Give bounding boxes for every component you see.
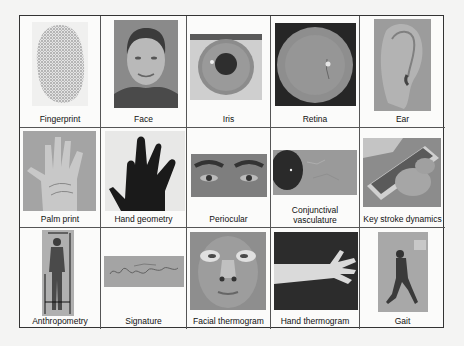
hand-geometry-image: [105, 131, 185, 211]
gait-image: [378, 232, 428, 312]
biometrics-grid: Fingerprint Face: [19, 15, 444, 328]
label-retina: Retina: [271, 114, 359, 124]
cell-periocular: Periocular: [187, 128, 271, 228]
conjunctival-vasculature-image: [273, 150, 357, 195]
palm-print-image: [23, 131, 96, 211]
cell-signature: Signature: [101, 228, 187, 329]
label-anthropometry: Anthropometry: [20, 316, 100, 326]
label-hand-geometry: Hand geometry: [101, 214, 186, 224]
signature-image: [104, 256, 184, 287]
periocular-image: [191, 154, 267, 197]
cell-gait: Gait: [360, 228, 445, 329]
cell-ear: Ear: [360, 16, 445, 128]
keystroke-dynamics-image: [363, 138, 441, 207]
cell-retina: Retina: [271, 16, 360, 128]
label-facial-thermogram: Facial thermogram: [187, 316, 270, 326]
label-face: Face: [101, 114, 186, 124]
iris-image: [190, 34, 262, 100]
face-image: [114, 20, 178, 108]
cell-keystroke-dynamics: Key stroke dynamics: [360, 128, 445, 228]
hand-thermogram-image: [274, 232, 358, 310]
cell-fingerprint: Fingerprint: [20, 16, 101, 128]
cell-hand-geometry: Hand geometry: [101, 128, 187, 228]
facial-thermogram-image: [190, 232, 266, 310]
cell-iris: Iris: [187, 16, 271, 128]
ear-image: [374, 19, 431, 111]
cell-facial-thermogram: Facial thermogram: [187, 228, 271, 329]
cell-face: Face: [101, 16, 187, 128]
label-fingerprint: Fingerprint: [20, 114, 100, 124]
cell-anthropometry: Anthropometry: [20, 228, 101, 329]
label-gait: Gait: [360, 316, 445, 326]
label-keystroke-dynamics: Key stroke dynamics: [360, 214, 445, 224]
label-signature: Signature: [101, 316, 186, 326]
retina-image: [275, 23, 356, 106]
cell-palm-print: Palm print: [20, 128, 101, 228]
label-conjunctival-vasculature: Conjunctival vasculature: [271, 205, 359, 225]
anthropometry-image: [42, 230, 74, 316]
label-hand-thermogram: Hand thermogram: [271, 316, 359, 326]
label-ear: Ear: [360, 114, 445, 124]
label-iris: Iris: [187, 114, 270, 124]
fingerprint-image: [32, 22, 88, 106]
label-palm-print: Palm print: [20, 214, 100, 224]
label-periocular: Periocular: [187, 214, 270, 224]
cell-hand-thermogram: Hand thermogram: [271, 228, 360, 329]
cell-conjunctival-vasculature: Conjunctival vasculature: [271, 128, 360, 228]
